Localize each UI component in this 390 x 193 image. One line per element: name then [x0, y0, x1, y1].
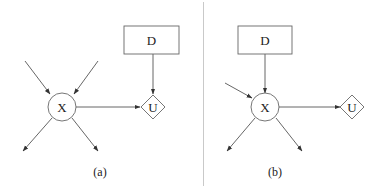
panel-b: D X U (b): [225, 26, 364, 179]
decision-node-label: D: [147, 33, 156, 48]
edge-out-left: [227, 118, 255, 151]
edge-out-left: [23, 118, 52, 151]
panel-caption: (b): [268, 165, 282, 179]
panel-caption: (a): [93, 165, 106, 179]
edge-out-right: [72, 118, 98, 151]
utility-node-label: U: [347, 100, 357, 115]
edge-in-left: [225, 83, 252, 98]
chance-node-label: X: [260, 100, 270, 115]
utility-node-label: U: [148, 100, 158, 115]
chance-node-label: X: [57, 100, 67, 115]
edge-in-right: [74, 61, 98, 94]
edge-in-left: [25, 61, 50, 94]
influence-diagram-figure: D X U (a) D X U (b): [0, 0, 390, 193]
edge-out-right: [276, 118, 302, 151]
panel-a: D X U (a): [23, 26, 179, 179]
decision-node-label: D: [260, 33, 269, 48]
